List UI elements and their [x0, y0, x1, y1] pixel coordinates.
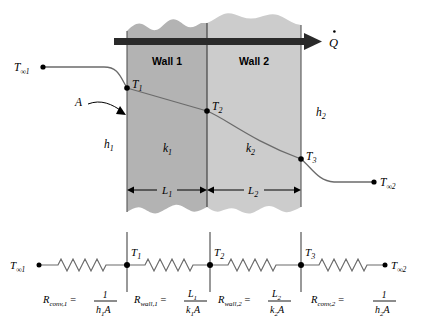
svg-text:T3: T3 — [306, 150, 316, 165]
svg-text:T∞1: T∞1 — [14, 61, 30, 76]
network-label-t-inf1: T∞1 — [10, 259, 25, 274]
svg-text:h1A: h1A — [96, 304, 112, 318]
svg-text:Rwall,2=: Rwall,2= — [217, 294, 251, 308]
network-label-t2: T2 — [214, 246, 224, 261]
svg-text:L1: L1 — [187, 288, 197, 302]
t1-node-dot — [124, 85, 130, 91]
svg-text:T∞2: T∞2 — [380, 176, 396, 191]
formula-r-wall-1: Rwall,1= L1 k1A — [133, 288, 207, 318]
heat-flow-label: Q — [329, 30, 338, 50]
temperature-curve-left — [43, 67, 127, 88]
svg-text:1: 1 — [382, 290, 387, 300]
svg-text:T∞2: T∞2 — [391, 259, 406, 274]
area-label: A — [74, 96, 83, 108]
t3-label: T3 — [306, 150, 316, 165]
svg-text:T1: T1 — [131, 246, 141, 261]
network-node-t1 — [124, 262, 130, 268]
figure-canvas: Q Wall 1 Wall 2 k1 k2 h1 h2 T∞1 T1 T2 T3 — [0, 0, 429, 329]
area-arrow — [88, 102, 123, 112]
wall-2-label: Wall 2 — [239, 55, 269, 67]
t2-node-dot — [204, 108, 210, 114]
convection-h1-label: h1 — [104, 138, 114, 153]
formula-r-wall-2: Rwall,2= L2 k2A — [217, 288, 291, 318]
svg-text:T3: T3 — [305, 246, 315, 261]
network-label-t3: T3 — [305, 246, 315, 261]
network-node-t-inf1 — [37, 263, 42, 268]
t3-node-dot — [298, 156, 304, 162]
network-label-t-inf2: T∞2 — [391, 259, 406, 274]
network-node-t3 — [298, 262, 304, 268]
svg-text:k2A: k2A — [270, 304, 285, 318]
svg-text:L2: L2 — [271, 288, 282, 302]
formula-r-conv-1: Rconv,1= 1 h1A — [42, 290, 117, 318]
svg-text:Rconv,2=: Rconv,2= — [310, 294, 344, 308]
network-node-t-inf2 — [383, 263, 388, 268]
formula-r-conv-2: Rconv,2= 1 h2A — [310, 290, 396, 318]
t-inf1-label: T∞1 — [14, 61, 30, 76]
svg-text:Rconv,1=: Rconv,1= — [42, 294, 76, 308]
t-inf2-node-dot — [371, 179, 376, 184]
svg-text:Q: Q — [329, 36, 338, 50]
t-inf2-label: T∞2 — [380, 176, 396, 191]
convection-h2-label: h2 — [316, 106, 326, 121]
svg-text:T∞1: T∞1 — [10, 259, 25, 274]
t-inf1-node-dot — [40, 64, 45, 69]
area-annotation: A — [74, 96, 126, 115]
svg-text:1: 1 — [103, 290, 108, 300]
network-label-t1: T1 — [131, 246, 141, 261]
network-node-t2 — [207, 262, 213, 268]
svg-text:T2: T2 — [214, 246, 224, 261]
svg-text:Rwall,1=: Rwall,1= — [133, 294, 167, 308]
svg-text:h2A: h2A — [375, 304, 391, 318]
svg-text:h2: h2 — [316, 106, 326, 121]
svg-text:h1: h1 — [104, 138, 114, 153]
svg-text:k1A: k1A — [186, 304, 201, 318]
wall-1-label: Wall 1 — [152, 55, 182, 67]
